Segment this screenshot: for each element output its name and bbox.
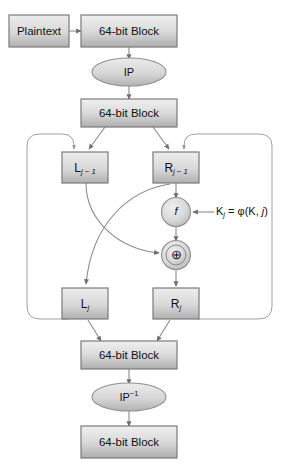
node-block-split: 64-bit Block <box>81 99 177 127</box>
key-schedule-label: Kj = φ(K, j) <box>216 205 268 219</box>
ip-label: IP <box>124 66 134 78</box>
annotation-key-schedule: Kj = φ(K, j) <box>216 205 268 219</box>
plaintext-label: Plaintext <box>17 25 62 37</box>
node-f-function: f <box>162 198 191 227</box>
xor-symbol: ⊕ <box>171 247 182 262</box>
node-l-prev: Lj − 1 <box>62 152 108 183</box>
des-feistel-diagram: Plaintext 64-bit Block IP 64-bit Block L… <box>0 0 289 474</box>
node-r-next: Rj <box>153 288 199 319</box>
edge-rnext-to-block <box>157 320 170 341</box>
node-l-next: Lj <box>62 288 108 319</box>
block-split-label: 64-bit Block <box>99 107 159 119</box>
r-prev-subscript: j − 1 <box>172 167 188 176</box>
block-output-label: 64-bit Block <box>99 436 159 448</box>
edge-rprev-to-lnext <box>86 184 170 284</box>
node-block-join: 64-bit Block <box>81 341 177 369</box>
node-plaintext: Plaintext <box>9 15 69 47</box>
node-block-output: 64-bit Block <box>81 426 177 458</box>
edge-block-to-lprev <box>89 127 105 149</box>
node-ip: IP <box>92 58 166 86</box>
block-join-label: 64-bit Block <box>99 349 159 361</box>
ip-inverse-superscript: −1 <box>130 389 139 398</box>
key-schedule-suffix: ) <box>264 205 268 217</box>
node-r-prev: Rj − 1 <box>153 152 199 183</box>
r-prev-letter: R <box>164 161 173 175</box>
r-next-subscript: j <box>178 303 181 312</box>
l-prev-subscript: j − 1 <box>80 167 96 176</box>
node-ip-inverse: IP−1 <box>92 383 166 411</box>
node-block-input: 64-bit Block <box>81 15 177 47</box>
l-next-subscript: j <box>87 303 90 312</box>
node-xor: ⊕ <box>162 241 191 270</box>
key-schedule-mid: = φ(K, <box>225 205 262 217</box>
r-next-letter: R <box>171 297 180 311</box>
edge-lnext-to-block <box>88 320 101 341</box>
edge-block-to-rprev <box>153 127 169 149</box>
block-input-label: 64-bit Block <box>99 25 159 37</box>
diagram-canvas: Plaintext 64-bit Block IP 64-bit Block L… <box>0 0 289 474</box>
edge-lprev-to-xor <box>86 183 159 253</box>
ip-inverse-letters: IP <box>119 391 129 403</box>
